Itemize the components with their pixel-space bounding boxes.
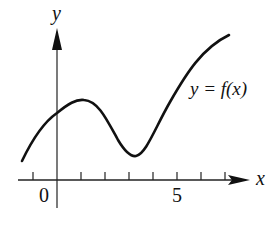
x-axis-ticks — [33, 172, 225, 180]
curve-label: y = f(x) — [190, 78, 247, 100]
y-axis-label: y — [52, 2, 61, 25]
tick-label-zero: 0 — [39, 184, 49, 207]
x-axis-label: x — [256, 167, 265, 190]
y-axis-arrow-icon — [52, 28, 62, 50]
tick-label-five: 5 — [172, 184, 182, 207]
